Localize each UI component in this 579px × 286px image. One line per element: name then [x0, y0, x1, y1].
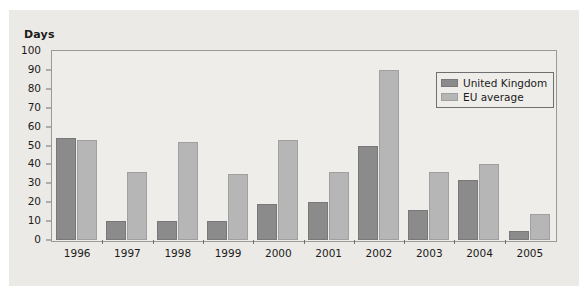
x-tick-mark [454, 240, 455, 244]
x-tick-label: 1999 [215, 247, 242, 259]
x-tick-label: 2003 [416, 247, 443, 259]
x-tick-label: 2005 [516, 247, 543, 259]
bar-uk [56, 138, 76, 240]
bar-eu [278, 140, 298, 240]
x-tick-mark [153, 240, 154, 244]
x-tick-label: 2004 [466, 247, 493, 259]
x-tick-mark [354, 240, 355, 244]
x-tick-mark [304, 240, 305, 244]
legend-swatch-icon [441, 93, 458, 101]
bar-group [52, 51, 102, 240]
legend-label: United Kingdom [463, 77, 547, 89]
bar-eu [228, 174, 248, 240]
bar-uk [207, 221, 227, 240]
y-tick-label: 0 [34, 233, 41, 245]
y-tick-label: 90 [28, 63, 41, 75]
x-tick-label: 1997 [114, 247, 141, 259]
bar-eu [329, 172, 349, 240]
bar-uk [458, 180, 478, 240]
bar-uk [408, 210, 428, 240]
bar-eu [178, 142, 198, 240]
bar-eu [429, 172, 449, 240]
bar-group [153, 51, 203, 240]
x-tick-mark [505, 240, 506, 244]
bar-group [304, 51, 354, 240]
x-axis: 1996199719981999200020012002200320042005 [52, 243, 555, 265]
bar-uk [257, 204, 277, 240]
x-tick-label: 2002 [366, 247, 393, 259]
legend-swatch-icon [441, 79, 458, 87]
legend-item: United Kingdom [441, 76, 547, 90]
x-tick-label: 1998 [164, 247, 191, 259]
y-tick-label: 50 [28, 139, 41, 151]
legend-item: EU average [441, 90, 547, 104]
y-axis: 0102030405060708090100 [9, 50, 47, 240]
x-tick-mark [253, 240, 254, 244]
chart-legend: United KingdomEU average [436, 72, 554, 108]
bar-uk [509, 231, 529, 240]
x-tick-mark [102, 240, 103, 244]
bar-uk [157, 221, 177, 240]
bar-group [102, 51, 152, 240]
bar-group [203, 51, 253, 240]
y-tick-label: 100 [21, 44, 41, 56]
chart-figure: Days 0102030405060708090100 199619971998… [9, 10, 579, 286]
bar-uk [106, 221, 126, 240]
y-tick-label: 80 [28, 82, 41, 94]
bar-eu [379, 70, 399, 240]
bar-group [354, 51, 404, 240]
x-tick-mark [404, 240, 405, 244]
bar-eu [530, 214, 550, 240]
y-tick-label: 70 [28, 101, 41, 113]
bar-eu [77, 140, 97, 240]
x-tick-label: 1996 [64, 247, 91, 259]
bar-eu [479, 164, 499, 240]
x-tick-mark [203, 240, 204, 244]
y-tick-label: 20 [28, 195, 41, 207]
bar-uk [358, 146, 378, 241]
y-axis-title: Days [24, 28, 55, 41]
y-tick-label: 40 [28, 157, 41, 169]
bar-uk [308, 202, 328, 240]
bar-eu [127, 172, 147, 240]
x-tick-label: 2000 [265, 247, 292, 259]
y-tick-label: 30 [28, 176, 41, 188]
y-tick-label: 10 [28, 214, 41, 226]
bar-group [253, 51, 303, 240]
legend-label: EU average [463, 91, 524, 103]
y-tick-label: 60 [28, 120, 41, 132]
x-tick-label: 2001 [315, 247, 342, 259]
